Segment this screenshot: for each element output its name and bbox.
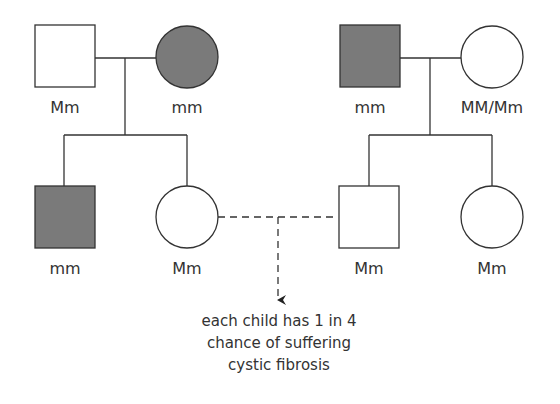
left-mother-circle xyxy=(156,26,218,88)
pedigree-diagram: Mm mm mm Mm mm MM/Mm Mm Mm each child ha… xyxy=(0,0,560,404)
genotype-label: Mm xyxy=(50,98,79,117)
genotype-label: mm xyxy=(49,259,80,278)
genotype-label: Mm xyxy=(172,259,201,278)
genotype-label: MM/Mm xyxy=(461,98,523,117)
right-son-square xyxy=(339,186,399,248)
union-connection xyxy=(218,217,337,300)
genotype-label: mm xyxy=(171,98,202,117)
genotype-label: mm xyxy=(354,98,385,117)
right-mother-circle xyxy=(461,26,523,88)
note-line-2: chance of suffering xyxy=(207,334,351,352)
right-daughter-circle xyxy=(461,186,523,248)
note-line-1: each child has 1 in 4 xyxy=(202,312,357,330)
right-family: mm MM/Mm Mm Mm xyxy=(339,25,523,278)
union-note: each child has 1 in 4 chance of sufferin… xyxy=(202,312,357,374)
left-family: Mm mm mm Mm xyxy=(35,25,218,278)
note-line-3: cystic fibrosis xyxy=(228,356,330,374)
left-father-square xyxy=(35,25,95,87)
genotype-label: Mm xyxy=(477,259,506,278)
genotype-label: Mm xyxy=(354,259,383,278)
right-father-square xyxy=(340,25,400,87)
left-daughter-circle xyxy=(156,186,218,248)
left-son-square xyxy=(35,186,95,248)
